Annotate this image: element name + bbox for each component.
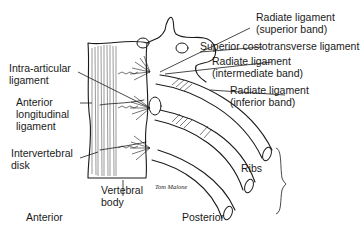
fan-inferior bbox=[130, 136, 150, 160]
label-anterior-longitudinal: Anterior bbox=[16, 96, 53, 108]
costovertebral-diagram: Radiate ligament (superior band) Superio… bbox=[0, 0, 364, 230]
rib-head-joint bbox=[149, 97, 161, 115]
label-anterior: Anterior bbox=[26, 211, 63, 223]
label-intra-articular-ligament: ligament bbox=[9, 74, 49, 86]
label-anterior-longitudinal-3: ligament bbox=[16, 120, 56, 132]
label-radiate-intermediate: Radiate ligament bbox=[212, 55, 291, 67]
label-radiate-intermediate-band: (intermediate band) bbox=[212, 67, 303, 79]
label-radiate-inferior: Radiate ligament bbox=[230, 84, 309, 96]
label-vertebral-body-2: body bbox=[101, 196, 125, 208]
label-ribs: Ribs bbox=[241, 162, 262, 174]
label-posterior: Posterior bbox=[182, 211, 225, 223]
label-radiate-superior-band: (superior band) bbox=[256, 23, 327, 35]
label-intervertebral: Intervertebral bbox=[11, 147, 73, 159]
label-intervertebral-disk: disk bbox=[11, 159, 30, 171]
label-superior-costotransverse: Superior costotransverse ligament bbox=[200, 40, 359, 52]
artist-signature: Tom Malone bbox=[155, 183, 188, 190]
label-intra-articular: Intra-articular bbox=[9, 62, 71, 74]
label-vertebral-body: Vertebral bbox=[101, 184, 143, 196]
label-anterior-longitudinal-2: longitudinal bbox=[16, 108, 69, 120]
label-radiate-superior: Radiate ligament bbox=[256, 11, 335, 23]
label-radiate-inferior-band: (inferior band) bbox=[230, 96, 295, 108]
